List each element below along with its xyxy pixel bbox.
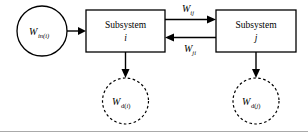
dissipation-i-subscript: d(i) <box>121 102 130 110</box>
subsystem-i-index: i <box>124 33 127 43</box>
input-arrow-head <box>78 27 86 35</box>
dissipation-j-subscript: d(j) <box>251 102 260 110</box>
subsystem-energy-flow-diagram: W in(i) Subsystem i Subsystem j Wij Wji … <box>0 0 308 134</box>
diagram-canvas: W in(i) Subsystem i Subsystem j Wij Wji … <box>0 0 308 134</box>
coupling-arrow-ji-label: Wji <box>184 43 196 56</box>
coupling-arrow-ij-head <box>207 16 216 24</box>
subsystem-j-label: Subsystem <box>235 20 277 30</box>
subsystem-j-box <box>216 10 296 52</box>
input-node-subscript: in(i) <box>38 32 49 40</box>
dissipation-i-circle <box>103 78 149 124</box>
subsystem-i-label: Subsystem <box>105 20 147 30</box>
dissipation-arrow-i-head <box>122 69 130 78</box>
subsystem-j-index: j <box>253 33 258 43</box>
input-node-circle <box>17 6 67 56</box>
coupling-arrow-ji-head <box>165 34 174 42</box>
subsystem-i-box <box>86 10 165 52</box>
dissipation-j-circle <box>233 78 279 124</box>
dissipation-arrow-j-head <box>252 69 260 78</box>
coupling-arrow-ij-label: Wij <box>182 3 194 16</box>
